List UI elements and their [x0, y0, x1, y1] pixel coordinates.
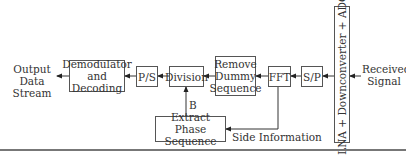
- received-signal-label: Received Signal: [362, 63, 406, 87]
- ps-block: P/S: [136, 66, 158, 87]
- demodulator-decoding-block: Demodulator and Decoding: [69, 60, 125, 92]
- output-data-stream-label: Output Data Stream: [2, 63, 62, 99]
- extract-phase-sequence-block: Extract Phase Sequence: [155, 116, 226, 142]
- division-block: Division: [169, 66, 204, 87]
- bottom-rule: [0, 149, 406, 151]
- lna-block-label: LNA + Downconverter + ADC: [336, 0, 348, 155]
- remove-dummy-sequence-block: Remove Dummy Sequence: [215, 56, 256, 96]
- b-label: B: [189, 99, 199, 111]
- side-information-label: Side Information: [232, 131, 302, 143]
- fft-block: FFT: [268, 66, 291, 87]
- lna-downconverter-adc-block: LNA + Downconverter + ADC: [334, 6, 350, 143]
- sp-block: S/P: [301, 66, 323, 87]
